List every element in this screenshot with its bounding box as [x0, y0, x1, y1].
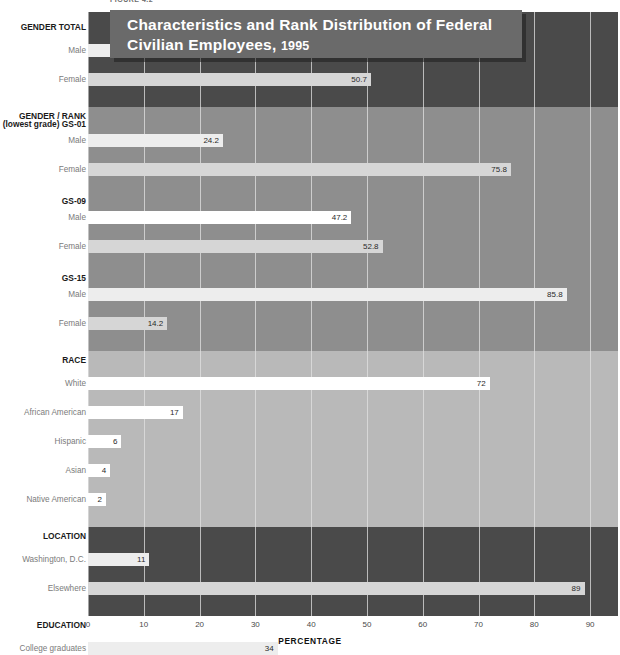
x-axis-title: PERCENTAGE	[0, 636, 620, 646]
x-tick-label: 30	[251, 620, 260, 629]
x-tick-label: 10	[139, 620, 148, 629]
x-tick-label: 0	[86, 620, 90, 629]
x-tick-label: 40	[307, 620, 316, 629]
x-tick-label: 90	[586, 620, 595, 629]
x-tick-label: 60	[418, 620, 427, 629]
x-tick-label: 20	[195, 620, 204, 629]
x-tick-label: 80	[530, 620, 539, 629]
x-tick-label: 70	[474, 620, 483, 629]
x-tick-label: 50	[362, 620, 371, 629]
